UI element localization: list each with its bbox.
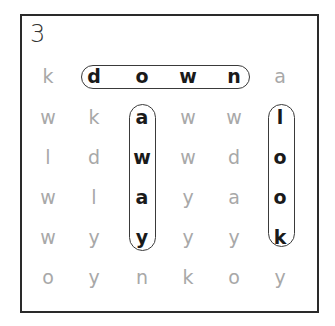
grid-cell-r5-c0[interactable]: o — [33, 262, 63, 292]
grid-cell-r3-c5[interactable]: o — [265, 182, 295, 212]
grid-cell-r0-c3[interactable]: w — [173, 61, 203, 91]
grid-cell-r3-c3[interactable]: y — [173, 182, 203, 212]
grid-cell-r0-c4[interactable]: n — [219, 61, 249, 91]
grid-cell-r1-c3[interactable]: w — [173, 102, 203, 132]
grid-cell-r5-c5[interactable]: y — [265, 262, 295, 292]
grid-cell-r2-c4[interactable]: d — [219, 142, 249, 172]
grid-cell-r3-c4[interactable]: a — [219, 182, 249, 212]
grid-cell-r4-c1[interactable]: y — [79, 222, 109, 252]
grid-cell-r5-c4[interactable]: o — [219, 262, 249, 292]
grid-cell-r2-c3[interactable]: w — [173, 142, 203, 172]
grid-cell-r4-c2[interactable]: y — [127, 222, 157, 252]
grid-cell-r5-c3[interactable]: k — [173, 262, 203, 292]
grid-cell-r4-c0[interactable]: w — [33, 222, 63, 252]
grid-cell-r2-c0[interactable]: l — [33, 142, 63, 172]
grid-cell-r3-c0[interactable]: w — [33, 182, 63, 212]
grid-cell-r3-c2[interactable]: a — [127, 182, 157, 212]
grid-cell-r2-c5[interactable]: o — [265, 142, 295, 172]
grid-cell-r1-c1[interactable]: k — [79, 102, 109, 132]
grid-cell-r3-c1[interactable]: l — [79, 182, 109, 212]
grid-cell-r0-c0[interactable]: k — [33, 61, 63, 91]
grid-cell-r4-c4[interactable]: y — [219, 222, 249, 252]
grid-cell-r1-c5[interactable]: l — [265, 102, 295, 132]
grid-cell-r2-c1[interactable]: d — [79, 142, 109, 172]
grid-cell-r1-c2[interactable]: a — [127, 102, 157, 132]
grid-cell-r5-c2[interactable]: n — [127, 262, 157, 292]
grid-cell-r1-c4[interactable]: w — [219, 102, 249, 132]
grid-cell-r1-c0[interactable]: w — [33, 102, 63, 132]
grid-cell-r0-c1[interactable]: d — [79, 61, 109, 91]
puzzle-number: 3 — [30, 20, 44, 48]
grid-cell-r2-c2[interactable]: w — [127, 142, 157, 172]
grid-cell-r0-c5[interactable]: a — [265, 61, 295, 91]
grid-cell-r4-c5[interactable]: k — [265, 222, 295, 252]
grid-cell-r5-c1[interactable]: y — [79, 262, 109, 292]
grid-cell-r0-c2[interactable]: o — [127, 61, 157, 91]
grid-cell-r4-c3[interactable]: y — [173, 222, 203, 252]
